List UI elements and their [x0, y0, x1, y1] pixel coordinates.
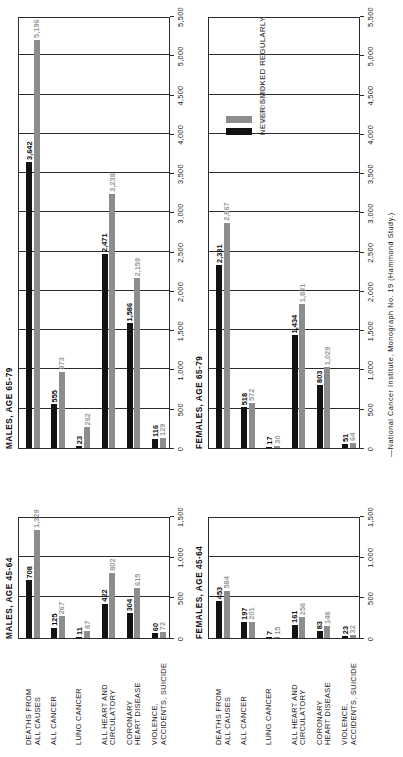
chart-title-males-65-79: MALES, AGE 65-79: [5, 367, 14, 449]
bar-value-smoker: 262: [84, 413, 91, 425]
bar-value-never-smoked: 453: [216, 587, 223, 599]
bar-smoker: [34, 40, 40, 448]
axis-tick: [170, 516, 174, 517]
bars-males-45-64: 7081,32912526711874228023046156072: [19, 518, 169, 638]
bar-value-never-smoked: 304: [126, 599, 133, 611]
bar-smoker: [274, 446, 280, 448]
category-label: DEATHS FROM ALL CAUSES: [25, 689, 42, 745]
bar-never-smoked: [102, 604, 108, 638]
category-label: ALL HEART AND CIRCULATORY: [291, 684, 308, 745]
bar-smoker: [59, 372, 65, 448]
bar-smoker: [350, 443, 356, 448]
gridline: [19, 15, 169, 16]
bar-smoker: [84, 427, 90, 448]
axis-tick-label: 2,500: [366, 243, 375, 263]
bar-smoker: [224, 591, 230, 638]
bar-value-smoker: 1,831: [299, 284, 306, 303]
plot-area-males-65-79: 3,6425,196555973232622,4713,2381,5862,15…: [18, 17, 170, 449]
bar-value-smoker: 32: [349, 625, 356, 633]
gridline: [19, 515, 169, 516]
bar-value-smoker: 256: [299, 603, 306, 615]
bar-value-smoker: 87: [84, 621, 91, 629]
bar-never-smoked: [102, 254, 108, 448]
axis-tick-label: 4,000: [176, 125, 185, 145]
chart-panel-males-45-64: MALES, AGE 45-647081,3291252671187422802…: [18, 517, 170, 639]
axis-tick-label: 1,500: [366, 507, 375, 527]
category-label: ALL CANCER: [50, 696, 59, 745]
plot-area-males-45-64: 7081,32912526711874228023046156072: [18, 517, 170, 639]
category-label: LUNG CANCER: [265, 688, 274, 745]
bar-value-smoker: 267: [58, 602, 65, 614]
category-label: CORONARY HEART DISEASE: [126, 682, 143, 745]
chart-panel-males-65-79: MALES, AGE 65-793,6425,196555973232622,4…: [18, 17, 170, 449]
figure-source-caption: —National Cancer Institute, Monograph No…: [386, 212, 395, 457]
figure-page: DEATHS FROM ALL CAUSESALL CANCERLUNG CAN…: [0, 0, 403, 757]
bar-value-smoker: 572: [248, 389, 255, 401]
x-axis-females-65-79: 05001,0001,5002,0002,5003,0003,5004,0004…: [360, 17, 380, 449]
bar-value-never-smoked: 1,434: [291, 315, 298, 334]
axis-tick-label: 3,000: [176, 203, 185, 223]
bar-value-smoker: 201: [248, 607, 255, 619]
axis-tick: [170, 212, 174, 213]
category-label: LUNG CANCER: [75, 688, 84, 745]
bar-smoker: [299, 617, 305, 638]
axis-tick: [170, 448, 174, 449]
category-label: CORONARY HEART DISEASE: [316, 682, 333, 745]
plot-area-females-45-64: 453584197201715161256831482332: [208, 517, 360, 639]
bar-value-smoker: 15: [274, 627, 281, 635]
bar-value-never-smoked: 1,586: [126, 303, 133, 322]
axis-tick: [170, 173, 174, 174]
bar-value-smoker: 64: [349, 433, 356, 441]
axis-tick: [360, 409, 364, 410]
bar-value-never-smoked: 2,471: [101, 233, 108, 252]
axis-tick: [170, 597, 174, 598]
axis-tick: [360, 16, 364, 17]
axis-tick: [360, 173, 364, 174]
axis-tick-label: 1,500: [176, 321, 185, 341]
axis-tick: [170, 330, 174, 331]
bar-value-never-smoked: 422: [101, 589, 108, 601]
bar-smoker: [134, 278, 140, 448]
axis-tick: [170, 55, 174, 56]
bar-never-smoked: [292, 625, 298, 638]
bar-never-smoked: [76, 637, 82, 638]
bar-value-smoker: 584: [223, 576, 230, 588]
bar-value-never-smoked: 803: [316, 371, 323, 383]
bar-value-smoker: 2,159: [134, 258, 141, 277]
bar-value-never-smoked: 3,642: [26, 141, 33, 160]
axis-tick-label: 500: [366, 592, 375, 605]
axis-tick: [170, 638, 174, 639]
bar-value-smoker: 148: [324, 612, 331, 624]
axis-tick-label: 3,500: [366, 164, 375, 184]
bar-smoker: [59, 616, 65, 638]
bar-value-smoker: 973: [58, 357, 65, 369]
bar-value-smoker: 615: [134, 574, 141, 586]
rotated-page-stage: DEATHS FROM ALL CAUSESALL CANCERLUNG CAN…: [0, 0, 403, 757]
axis-tick-label: 1,000: [176, 360, 185, 380]
axis-tick-label: 1,000: [176, 548, 185, 568]
axis-tick: [360, 55, 364, 56]
chart-title-females-65-79: FEMALES, AGE 65-79: [195, 356, 204, 449]
bar-never-smoked: [266, 637, 272, 638]
bar-value-smoker: 3,238: [109, 173, 116, 192]
figure-sheet: DEATHS FROM ALL CAUSESALL CANCERLUNG CAN…: [0, 0, 403, 757]
axis-tick-label: 1,500: [366, 321, 375, 341]
axis-tick: [170, 291, 174, 292]
axis-tick-label: 4,500: [176, 86, 185, 106]
bar-value-never-smoked: 125: [51, 614, 58, 626]
category-label: DEATHS FROM ALL CAUSES: [215, 689, 232, 745]
bar-value-smoker: 30: [274, 435, 281, 443]
axis-tick-label: 5,500: [366, 7, 375, 27]
axis-tick-label: 500: [366, 403, 375, 416]
axis-tick: [360, 516, 364, 517]
axis-tick: [360, 212, 364, 213]
category-label: VIOLENCE, ACCIDENTS, SUICIDE: [151, 663, 168, 745]
axis-tick-label: 2,000: [176, 282, 185, 302]
legend-swatch-smoker: [226, 116, 252, 123]
axis-tick-label: 0: [366, 447, 375, 451]
axis-tick: [360, 597, 364, 598]
axis-tick: [170, 409, 174, 410]
bar-never-smoked: [127, 613, 133, 638]
axis-tick-label: 2,000: [366, 282, 375, 302]
bar-smoker: [160, 438, 166, 448]
